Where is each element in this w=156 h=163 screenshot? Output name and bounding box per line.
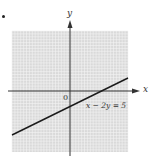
x-axis-label: x	[143, 84, 148, 94]
y-axis-label: y	[67, 8, 72, 18]
x-axis-arrow-icon	[132, 89, 140, 94]
origin-label: 0	[63, 93, 68, 102]
equation-label: x − 2y = 5	[86, 101, 126, 110]
y-axis-arrow-icon	[68, 20, 73, 28]
coordinate-plane	[0, 0, 156, 163]
